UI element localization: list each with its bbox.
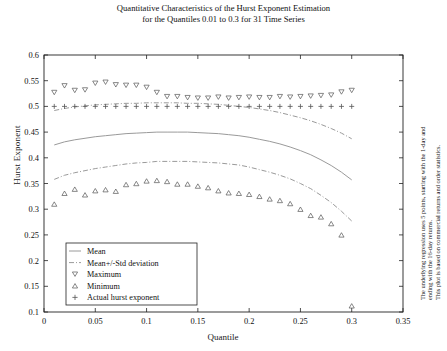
- series-maximum-marker: [185, 95, 190, 99]
- series-minimum-marker: [288, 201, 293, 205]
- series-minimum-marker: [62, 191, 67, 195]
- x-tick-label: 0.2: [244, 317, 254, 326]
- x-tick-label: 0.3: [346, 317, 356, 326]
- y-tick-label: 0.25: [24, 231, 39, 240]
- series-minimum-marker: [257, 194, 262, 198]
- series-minimum-marker: [93, 188, 98, 192]
- y-tick-label: 0.3: [29, 205, 39, 214]
- series-maximum-marker: [154, 90, 159, 94]
- series-minimum-marker: [113, 189, 118, 193]
- y-tick-label: 0.45: [24, 128, 39, 137]
- legend-label: Mean+/-Std deviation: [87, 259, 159, 268]
- legend-label: Minimum: [87, 282, 120, 291]
- series-minimum-marker: [144, 179, 149, 183]
- series-maximum-marker: [236, 95, 241, 99]
- series-maximum-marker: [103, 80, 108, 84]
- series-minimum-marker: [154, 178, 159, 182]
- x-tick-label: 0.05: [88, 317, 103, 326]
- y-tick-label: 0.6: [29, 51, 39, 60]
- series-maximum-marker: [329, 93, 334, 97]
- series-maximum-marker: [339, 90, 344, 94]
- series-maximum-marker: [318, 93, 323, 97]
- series-maximum-marker: [82, 88, 87, 92]
- series-maximum-marker: [308, 94, 313, 98]
- series-maximum-marker: [277, 94, 282, 98]
- legend-label: Actual hurst exponent: [87, 293, 160, 302]
- series-minimum-marker: [226, 191, 231, 195]
- series-maximum-marker: [123, 83, 128, 87]
- legend-label: Mean: [87, 247, 106, 256]
- y-tick-label: 0.35: [24, 180, 39, 189]
- series-minimum-marker: [52, 202, 57, 206]
- series-minimum-marker: [82, 193, 87, 197]
- series-maximum-marker: [267, 95, 272, 99]
- series-maximum-marker: [298, 94, 303, 98]
- series-mean-plus-std-line: [54, 103, 351, 139]
- y-tick-label: 0.15: [24, 282, 39, 291]
- series-minimum-marker: [298, 207, 303, 211]
- legend-label: Maximum: [87, 270, 122, 279]
- x-tick-label: 0.35: [396, 317, 411, 326]
- series-maximum-marker: [349, 88, 354, 92]
- series-maximum-marker: [206, 96, 211, 100]
- series-maximum-marker: [62, 84, 67, 88]
- series-maximum-marker: [134, 83, 139, 87]
- series-minimum-marker: [247, 192, 252, 196]
- series-maximum-marker: [226, 96, 231, 100]
- series-maximum-marker: [164, 94, 169, 98]
- y-tick-label: 0.1: [29, 308, 39, 317]
- y-tick-label: 0.55: [24, 77, 39, 86]
- series-minimum-marker: [349, 304, 354, 308]
- plot-canvas: 00.050.10.150.20.250.30.350.10.150.20.25…: [0, 0, 447, 351]
- series-maximum-marker: [247, 95, 252, 99]
- series-minimum-marker: [175, 182, 180, 186]
- x-tick-label: 0.25: [293, 317, 308, 326]
- x-tick-label: 0.15: [191, 317, 206, 326]
- y-tick-label: 0.2: [29, 257, 39, 266]
- series-minimum-marker: [339, 233, 344, 237]
- series-minimum-marker: [206, 185, 211, 189]
- x-tick-label: 0.1: [141, 317, 151, 326]
- series-maximum-marker: [288, 95, 293, 99]
- series-maximum-marker: [195, 96, 200, 100]
- y-tick-label: 0.4: [29, 154, 40, 163]
- series-mean-line: [54, 132, 351, 180]
- series-maximum-marker: [52, 90, 57, 94]
- chart-figure: Quantitative Characteristics of the Hurs…: [0, 0, 447, 351]
- series-maximum-marker: [93, 81, 98, 85]
- series-minimum-marker: [216, 188, 221, 192]
- series-maximum-marker: [175, 94, 180, 98]
- series-maximum-marker: [113, 83, 118, 87]
- series-maximum-marker: [144, 85, 149, 89]
- series-minimum-marker: [277, 198, 282, 202]
- x-tick-label: 0: [42, 317, 46, 326]
- series-maximum-marker: [72, 88, 77, 92]
- y-tick-label: 0.5: [29, 102, 39, 111]
- series-maximum-marker: [257, 95, 262, 99]
- series-maximum-marker: [216, 95, 221, 99]
- series-minimum-marker: [318, 215, 323, 219]
- series-minimum-marker: [195, 184, 200, 188]
- series-minimum-marker: [329, 221, 334, 225]
- series-minimum-marker: [103, 187, 108, 191]
- series-minimum-marker: [308, 213, 313, 217]
- series-minimum-marker: [164, 179, 169, 183]
- series-minimum-marker: [134, 181, 139, 185]
- series-minimum-marker: [123, 182, 128, 186]
- series-minimum-marker: [185, 182, 190, 186]
- series-mean-minus-std-line: [54, 161, 351, 221]
- series-minimum-marker: [72, 187, 77, 191]
- series-minimum-marker: [236, 191, 241, 195]
- series-minimum-marker: [267, 197, 272, 201]
